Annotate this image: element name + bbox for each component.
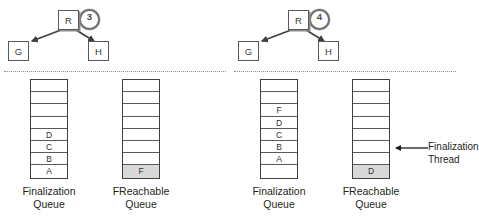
object-graph: R G H <box>0 0 230 70</box>
graph-node-root: R <box>288 10 309 30</box>
finalization-queue: DCBA <box>30 79 68 179</box>
queue-cell <box>31 92 67 104</box>
queue-cell <box>31 104 67 116</box>
queue-cell <box>353 153 389 165</box>
finalization-thread-callout: Finalization Thread <box>428 141 479 166</box>
queue-cell <box>353 92 389 104</box>
queue-cell: F <box>261 104 297 116</box>
queue-cell <box>261 80 297 92</box>
finalization-queue-label: Finalization Queue <box>229 185 329 211</box>
queue-cell: C <box>31 141 67 153</box>
queue-cell <box>123 92 159 104</box>
freachable-queue-label: FReachable Queue <box>321 185 421 211</box>
queue-cell <box>261 92 297 104</box>
graph-node-root: R <box>58 10 79 30</box>
queue-cell <box>31 80 67 92</box>
graph-edges <box>230 0 460 70</box>
freachable-queue: D <box>352 79 390 179</box>
queue-cell: D <box>261 117 297 129</box>
graph-node-h: H <box>318 41 339 61</box>
finalization-thread-arrow <box>390 140 432 156</box>
freachable-queue: F <box>122 79 160 179</box>
divider <box>4 71 226 72</box>
queue-cell: F <box>123 165 159 177</box>
queue-cell <box>123 141 159 153</box>
queue-cell: A <box>31 165 67 177</box>
queue-cell <box>123 153 159 165</box>
queue-cell: C <box>261 129 297 141</box>
label-line-1: Finalization <box>229 185 329 198</box>
diagram-panel-step-3: 3 R G H DCBA F Finalization Queue FReach… <box>0 0 230 221</box>
diagram-panel-step-4: 4 R G H FDCBA D Finalization Thread F <box>230 0 460 221</box>
queue-cell: B <box>31 153 67 165</box>
finalization-queue: FDCBA <box>260 79 298 179</box>
queue-cell: D <box>31 129 67 141</box>
queue-cell <box>123 104 159 116</box>
label-line-1: Finalization <box>0 185 99 198</box>
label-line-1: FReachable <box>321 185 421 198</box>
queue-cell <box>353 129 389 141</box>
queue-cell: D <box>353 165 389 177</box>
graph-edges <box>0 0 230 70</box>
label-line-2: Queue <box>321 198 421 211</box>
graph-node-g: G <box>238 41 259 61</box>
freachable-queue-label: FReachable Queue <box>91 185 191 211</box>
queue-cell: B <box>261 141 297 153</box>
queue-cell <box>123 129 159 141</box>
label-line-2: Queue <box>0 198 99 211</box>
queue-cell <box>261 165 297 177</box>
callout-line-1: Finalization <box>428 141 479 154</box>
label-line-2: Queue <box>91 198 191 211</box>
queue-cell <box>353 80 389 92</box>
queue-cell <box>123 80 159 92</box>
queue-cell <box>123 117 159 129</box>
label-line-1: FReachable <box>91 185 191 198</box>
finalization-queue-label: Finalization Queue <box>0 185 99 211</box>
queue-cell <box>353 104 389 116</box>
graph-node-h: H <box>88 41 109 61</box>
callout-line-2: Thread <box>428 154 479 167</box>
queue-cell <box>353 141 389 153</box>
queue-cell: A <box>261 153 297 165</box>
label-line-2: Queue <box>229 198 329 211</box>
queue-cell <box>31 117 67 129</box>
graph-node-g: G <box>8 41 29 61</box>
queue-cell <box>353 117 389 129</box>
divider <box>234 71 456 72</box>
object-graph: R G H <box>230 0 460 70</box>
